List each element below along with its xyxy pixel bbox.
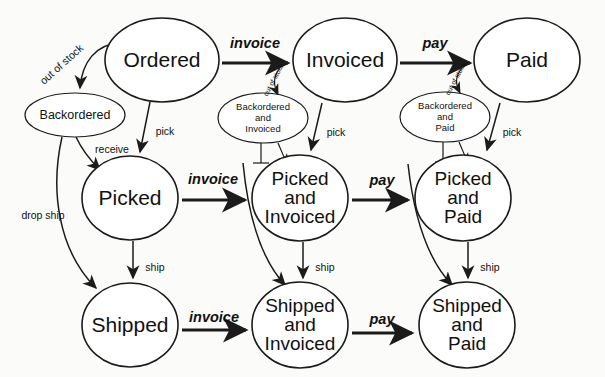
shipped-and-paid-line1: Shipped [432,295,502,316]
edge-label-receive: receive [95,143,129,155]
shipped-and-invoiced-line1: Shipped [265,295,335,316]
shipped-and-paid-line3: Paid [448,333,486,354]
state-node-shipped-and-invoiced[interactable]: Shipped and Invoiced [252,282,348,368]
edge-label-pay-bottom: pay [369,311,396,327]
edge-label-pay-middle: pay [369,172,396,188]
shipped-label: Shipped [91,313,168,336]
edge-label-ship-picked-and-invoiced: ship [315,261,334,273]
edge-label-out-of-stock-invoiced: out of stock [262,62,285,97]
edge-label-pick-paid: pick [503,126,522,138]
ordered-label: Ordered [123,48,200,71]
picked-and-invoiced-line3: Invoiced [265,206,336,227]
state-node-shipped[interactable]: Shipped [82,283,178,367]
state-node-backordered-and-paid[interactable]: Backordered and Paid [400,92,490,142]
backordered-and-invoiced-line2: and [255,112,271,123]
edge-label-drop-ship: drop ship [21,209,64,221]
edge-label-ship-picked: ship [145,261,164,273]
edge-ordered-to-picked [140,102,150,152]
edge-label-out-of-stock: out of stock [37,41,85,86]
shipped-and-invoiced-line2: and [284,314,316,335]
picked-and-paid-line2: and [447,187,479,208]
edge-label-pick-invoiced: pick [327,126,346,138]
picked-label: Picked [98,186,161,209]
shipped-and-invoiced-line3: Invoiced [265,333,336,354]
edge-label-invoice-middle: invoice [188,171,238,187]
state-node-backordered-and-invoiced[interactable]: Backordered and Invoiced [218,93,308,143]
state-node-picked-and-paid[interactable]: Picked and Paid [415,155,511,241]
state-node-ordered[interactable]: Ordered [105,18,219,102]
state-node-backordered[interactable]: Backordered [25,93,125,137]
state-node-shipped-and-paid[interactable]: Shipped and Paid [419,282,515,368]
invoiced-label: Invoiced [306,48,384,71]
state-diagram-canvas: Ordered Invoiced Paid Backordered Backor… [0,0,605,377]
edge-label-invoice-top: invoice [230,35,280,51]
picked-and-invoiced-line1: Picked [271,168,328,189]
paid-label: Paid [506,48,548,71]
state-node-invoiced[interactable]: Invoiced [293,18,397,102]
edge-label-invoice-bottom: invoice [189,309,239,325]
state-node-paid[interactable]: Paid [474,18,580,102]
backordered-label: Backordered [40,108,111,122]
picked-and-paid-line3: Paid [444,206,482,227]
edge-label-pay-top: pay [422,35,449,51]
backordered-and-invoiced-line1: Backordered [236,101,290,112]
backordered-and-paid-line3: Paid [435,122,454,133]
picked-and-invoiced-line2: and [284,187,316,208]
state-node-picked-and-invoiced[interactable]: Picked and Invoiced [252,155,348,241]
shipped-and-paid-line2: and [451,314,483,335]
backordered-and-paid-line1: Backordered [418,100,472,111]
state-node-picked[interactable]: Picked [82,156,178,240]
picked-and-paid-line1: Picked [434,168,491,189]
edge-label-pick-ordered: pick [156,125,175,137]
edge-label-ship-picked-and-paid: ship [480,261,499,273]
backordered-and-invoiced-line3: Invoiced [245,123,280,134]
order-fulfillment-state-diagram: Ordered Invoiced Paid Backordered Backor… [0,0,605,377]
edge-label-out-of-stock-paid: out of stock [444,61,467,96]
edge-invoiced-to-picked-and-invoiced [311,103,322,150]
backordered-and-paid-line2: and [437,111,453,122]
